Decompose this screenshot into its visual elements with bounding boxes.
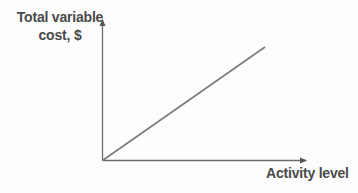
x-axis-label: Activity level bbox=[266, 164, 349, 182]
y-axis-label-line-2: cost, $ bbox=[12, 26, 108, 44]
total-variable-cost-chart: Total variable cost, $ Activity level bbox=[0, 0, 358, 193]
y-axis-label-line-1: Total variable bbox=[12, 8, 108, 26]
y-axis-label: Total variable cost, $ bbox=[12, 8, 108, 44]
total-variable-cost-line bbox=[103, 47, 266, 161]
